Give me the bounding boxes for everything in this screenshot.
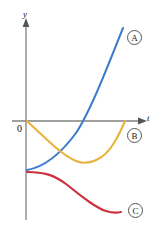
- curve-tag-a: A: [127, 30, 142, 45]
- origin-label: 0: [17, 124, 22, 134]
- curve-b-path: [27, 121, 125, 163]
- y-axis: [23, 18, 30, 220]
- curve-tag-c: C: [128, 203, 143, 218]
- x-axis: [12, 118, 147, 125]
- figure-container: y t 0 A B C: [0, 0, 162, 228]
- curve-a-path: [27, 28, 123, 170]
- curve-c-path: [27, 172, 121, 213]
- curve-tag-b: B: [127, 128, 142, 143]
- y-axis-label: y: [23, 10, 27, 19]
- x-axis-label: t: [147, 114, 150, 123]
